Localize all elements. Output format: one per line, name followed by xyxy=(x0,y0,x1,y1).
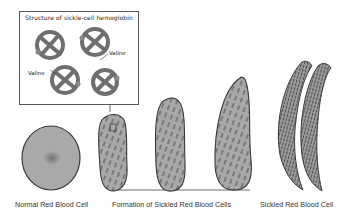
caption-formation: Formation of Sickled Red Blood Cells xyxy=(112,200,231,209)
sickled-red-blood-cell xyxy=(278,61,331,191)
valine-label-left: Valine xyxy=(28,70,45,76)
forming-cell-3 xyxy=(215,77,252,190)
caption-normal-cell: Normal Red Blood Cell xyxy=(15,200,88,209)
hemoglobin-molecules xyxy=(20,12,138,104)
hemoglobin-structure-inset: Structure of sickle-cell hemoglobin Vali… xyxy=(19,11,139,105)
normal-red-blood-cell xyxy=(22,126,80,190)
forming-cell-2 xyxy=(155,98,185,191)
forming-cell-1 xyxy=(99,114,127,191)
valine-label-right: Valine xyxy=(109,50,126,56)
caption-sickled-cell: Sickled Red Blood Cell xyxy=(260,200,333,209)
